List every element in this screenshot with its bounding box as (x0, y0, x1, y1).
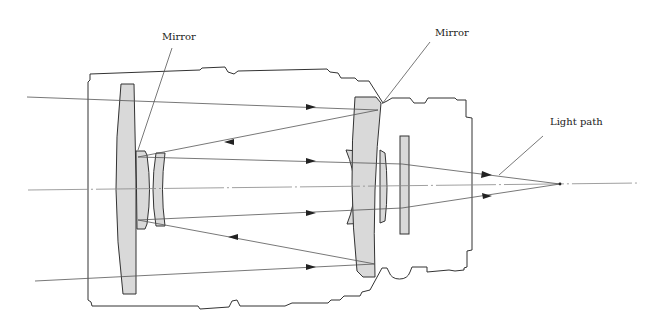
secondary-meniscus-lens (153, 153, 165, 226)
label-light-path: Light path (550, 116, 603, 127)
rear-relay-element (380, 150, 387, 223)
arrow-icon (228, 234, 238, 240)
arrow-icon (482, 193, 492, 199)
mirror-lens-diagram: Mirror Mirror Light path (0, 0, 663, 328)
arrow-icon (481, 171, 492, 178)
primary-mirror (352, 97, 381, 277)
ray-lower-reflected (138, 220, 375, 264)
label-mirror-right: Mirror (435, 27, 469, 38)
ray-lower-incoming (35, 264, 375, 281)
leader-mirror-left (138, 48, 172, 150)
ray-upper-reflected (138, 110, 378, 157)
arrow-icon (306, 264, 316, 270)
secondary-mirror (136, 151, 150, 229)
arrow-icon (306, 158, 316, 164)
leader-mirror-right (382, 42, 430, 104)
arrow-icon (306, 104, 316, 110)
ray-upper-to-focus (138, 157, 560, 184)
leader-light-path (499, 136, 543, 175)
label-mirror-left: Mirror (162, 31, 196, 42)
arrow-icon (306, 210, 316, 216)
ray-lower-to-focus (138, 184, 560, 220)
ray-upper-incoming (27, 97, 378, 110)
focal-point (559, 183, 562, 186)
diagram-canvas (0, 0, 663, 328)
rear-filter-plate (400, 136, 409, 234)
